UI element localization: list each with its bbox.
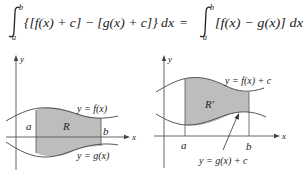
pointer-line [223,117,237,150]
left-integrand: {[f(x) + c] − [g(x) + c]} dx [24,15,174,30]
left-integral-upper-limit: b [19,3,23,12]
right-integral-upper-limit: b [210,3,214,12]
b-label: b [246,140,252,152]
y-axis-arrow-icon [14,55,18,61]
bottom-curve-label: y = g(x) + c [198,155,248,167]
a-label: a [181,139,187,151]
x-axis-arrow-icon [124,135,130,139]
x-axis-arrow-icon [274,134,280,138]
region-label: R′ [204,98,215,110]
pointer-arrow-icon [235,113,240,120]
top-curve-label: y = f(x) [76,103,108,115]
top-curve-label: y = f(x) + c [224,75,272,87]
a-label: a [26,120,32,132]
x-axis-label: x [131,132,136,142]
equation: b a {[f(x) + c] − [g(x) + c]} dx = b a [… [9,3,303,42]
b-label: b [103,125,109,137]
region-label: R [62,120,70,132]
x-axis-label: x [281,131,286,141]
right-integrand: [f(x) − g(x)] dx [215,15,303,30]
equals-sign: = [180,15,187,30]
left-graph: y x y = f(x) y = g(x) R a b [6,54,136,170]
y-axis-arrow-icon [162,55,166,61]
y-axis-label: y [167,54,172,64]
right-graph: y x y = f(x) + c y = g(x) + c R′ a b [154,54,286,168]
figure: b a {[f(x) + c] − [g(x) + c]} dx = b a [… [0,0,308,170]
left-integral-lower-limit: a [12,33,16,42]
right-integral-lower-limit: a [203,33,207,42]
bottom-curve-label: y = g(x) [76,150,110,162]
y-axis-label: y [19,54,24,64]
